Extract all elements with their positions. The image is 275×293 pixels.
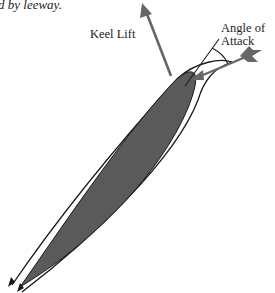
keel-foil <box>20 72 196 287</box>
keel-foil-diagram <box>0 0 275 293</box>
arrowhead-left-icon <box>8 277 15 287</box>
fletching-icon <box>240 46 262 62</box>
flow-arrow <box>190 46 262 80</box>
keel-lift-arrow <box>140 3 171 76</box>
lift-arrowhead-icon <box>140 3 152 18</box>
